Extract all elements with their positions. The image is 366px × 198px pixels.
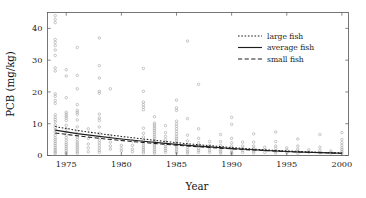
data-point [252,133,255,136]
data-point [208,140,211,143]
data-point [76,119,79,122]
data-point [341,142,344,145]
data-point [142,127,145,130]
data-point [175,120,178,123]
x-tick-label: 2000 [331,159,352,169]
data-point [76,152,79,155]
x-tick-labels: 197519801985199019952000 [56,159,352,169]
data-point [186,40,189,43]
data-point [131,148,134,151]
data-point [54,99,57,102]
data-point [120,144,123,147]
data-point [54,18,57,21]
data-point [54,95,57,98]
data-point [164,138,167,141]
legend-label-large-fish: large fish [267,32,303,41]
data-point [186,152,189,155]
data-point [54,41,57,44]
data-point [76,74,79,77]
data-point [98,117,101,120]
data-point [263,146,266,149]
data-point [131,144,134,147]
data-point [65,68,68,71]
data-point [219,152,222,155]
data-point [87,150,90,153]
x-tick-label: 1995 [276,159,297,169]
chart-legend: large fishaverage fishsmall fish [238,32,314,64]
data-point [230,145,233,148]
y-tick-label: 10 [32,119,42,129]
data-point [274,140,277,143]
data-point [109,145,112,148]
data-point [54,54,57,57]
data-point [142,136,145,139]
data-point [142,108,145,111]
data-point [252,141,255,144]
data-point [197,137,200,140]
data-point [241,145,244,148]
data-point [54,124,57,127]
data-point [175,125,178,128]
data-point [54,114,57,117]
data-point [65,136,68,139]
data-point [297,145,300,148]
data-point [175,99,178,102]
data-point [341,131,344,134]
x-axis-title: Year [185,181,209,192]
data-point [98,77,101,80]
data-point [142,106,145,109]
data-point [308,149,311,152]
data-point [76,126,79,128]
data-point [175,107,178,110]
data-point [109,148,112,151]
data-point [54,102,57,105]
data-point [98,126,101,128]
data-point [65,96,68,99]
data-point [109,88,112,91]
data-point [197,142,200,145]
data-point [54,70,57,73]
data-point [274,147,277,150]
y-tick-label: 20 [32,87,42,97]
data-point [54,93,57,96]
data-point [341,144,344,147]
data-point [175,130,178,133]
data-point [65,124,68,127]
y-tick-label: 0 [37,150,42,160]
data-point [76,103,79,106]
data-point [219,140,222,143]
y-tick-label: 30 [32,55,42,65]
data-point [120,147,123,150]
data-point [341,138,344,141]
y-tick-label: 40 [32,23,42,33]
data-point [230,123,233,126]
data-point [98,119,101,122]
data-point [54,134,57,137]
data-point [65,75,68,78]
data-point [98,142,101,145]
data-point [87,128,90,131]
data-point [252,145,255,148]
data-point [54,44,57,47]
data-point [87,147,90,150]
axes-frame [48,13,349,156]
data-point [65,119,68,122]
data-point [98,139,101,142]
data-point [319,146,322,149]
data-point [274,131,277,134]
data-point [54,67,57,70]
y-tick-labels: 010203040 [32,23,42,160]
data-point [98,147,101,150]
data-point [175,128,178,131]
data-point [65,139,68,142]
legend-label-small-fish: small fish [267,55,304,64]
data-point [241,141,244,144]
data-point [98,113,101,116]
data-point [197,83,200,86]
data-point [274,145,277,148]
data-point [153,152,156,155]
data-point [98,37,101,40]
data-point [142,90,145,93]
data-point [142,132,145,135]
data-point [142,103,145,106]
